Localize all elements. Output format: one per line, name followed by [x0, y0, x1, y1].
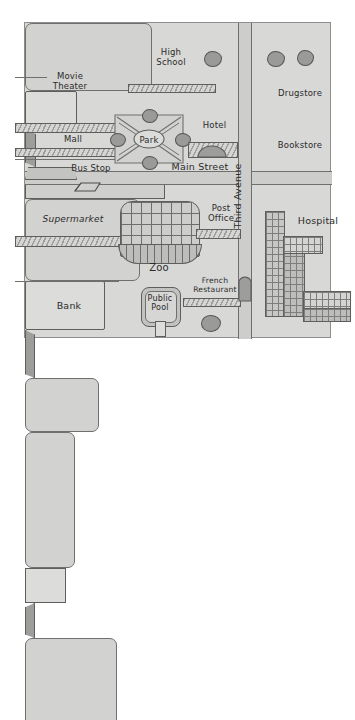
- pool-ladder: [155, 321, 166, 337]
- tree-icon: [204, 51, 222, 67]
- hospital-roof-upper: [283, 236, 323, 254]
- french-restaurant-base: [183, 298, 241, 307]
- high-school-side: [25, 330, 35, 378]
- tree-icon: [201, 315, 221, 332]
- place-label-post-office: Post Office: [203, 203, 239, 223]
- tree-icon: [297, 50, 314, 66]
- supermarket-storefront: [15, 236, 129, 247]
- place-label-public-pool: Public Pool: [145, 294, 175, 312]
- place-label-movie-theater: Movie Theater: [45, 71, 95, 91]
- place-label-mall: Mall: [43, 134, 103, 144]
- place-label-zoo: Zoo: [130, 263, 188, 273]
- post-office-base: [196, 229, 241, 239]
- place-label-bookstore: Bookstore: [271, 140, 329, 150]
- main-street-edge-bottom: [25, 184, 332, 185]
- bus-stop-icon: [73, 180, 103, 194]
- place-label-hotel: Hotel: [195, 120, 234, 130]
- hospital-wing-lower: [303, 308, 351, 322]
- place-label-high-school: High School: [132, 47, 210, 67]
- lot-drugstore-bookstore: [25, 638, 117, 720]
- french-restaurant-awning: [237, 273, 253, 303]
- lot-hotel: [25, 432, 75, 568]
- place-label-supermarket: Supermarket: [31, 214, 115, 224]
- place-label-french-restaurant: French Restaurant: [189, 276, 241, 294]
- lot-park: [25, 378, 99, 432]
- hotel-side: [25, 603, 35, 638]
- place-label-bank: Bank: [39, 301, 99, 311]
- place-label-drugstore: Drugstore: [271, 88, 329, 98]
- zoo-base-arc: [118, 244, 202, 264]
- building-hotel: [25, 568, 66, 603]
- hotel-canopy: [195, 143, 229, 159]
- place-label-hospital: Hospital: [287, 216, 349, 226]
- high-school-steps: [128, 84, 216, 93]
- movie-theater-access-road: [15, 77, 47, 78]
- hospital-wing-vertical: [265, 211, 285, 317]
- place-label-bus-stop: Bus Stop: [61, 163, 121, 173]
- place-label-park: Park: [131, 135, 167, 145]
- tree-icon: [267, 51, 285, 67]
- city-map: Main Street Third Avenue Movie Theater M…: [24, 22, 331, 338]
- bank-lot-edge: [15, 281, 119, 282]
